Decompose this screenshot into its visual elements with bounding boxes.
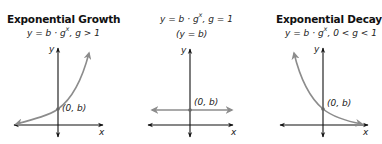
growth-curve [16,53,89,124]
decay-curve [294,53,362,124]
constant-axes [148,49,233,137]
constant-point [188,108,192,112]
growth-point [56,107,60,111]
decay-point [321,107,325,111]
decay-axes [280,48,368,137]
growth-axes [14,48,103,137]
